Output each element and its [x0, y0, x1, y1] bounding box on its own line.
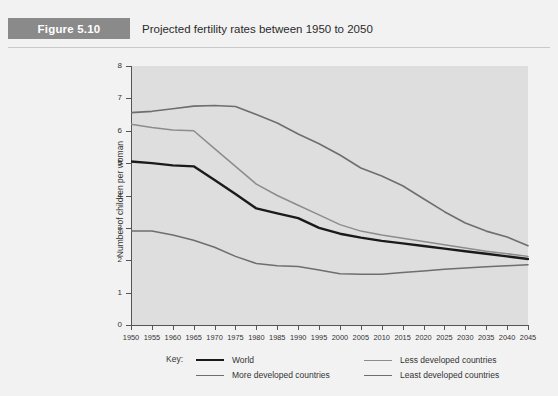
legend-item-least-developed: Least developed countries	[364, 368, 499, 382]
y-tick-label: 8	[96, 62, 122, 70]
legend-item-less-developed: Less developed countries	[364, 353, 496, 367]
legend-label-less-developed: Less developed countries	[400, 355, 496, 365]
series-line-least-developed-countries	[131, 106, 528, 246]
figure-title: Projected fertility rates between 1950 t…	[142, 18, 373, 39]
chart-legend: Key: World Less developed countries More…	[0, 352, 558, 388]
chart-lines	[131, 66, 529, 326]
y-tick-label: 6	[96, 127, 122, 135]
y-tick-label: 1	[96, 289, 122, 297]
y-tick-label: 5	[96, 159, 122, 167]
x-tick-label: 2045	[513, 333, 543, 342]
header-divider	[8, 47, 550, 48]
legend-label-least-developed: Least developed countries	[400, 370, 499, 380]
y-tick-label: 2	[96, 256, 122, 264]
legend-label-more-developed: More developed countries	[232, 370, 330, 380]
series-line-less-developed-countries	[131, 124, 528, 256]
figure-number-badge: Figure 5.10	[8, 18, 130, 39]
legend-label-world: World	[232, 355, 254, 365]
y-tick-label: 4	[96, 192, 122, 200]
y-tick-label: 3	[96, 224, 122, 232]
legend-key-label: Key:	[166, 354, 183, 364]
figure-header: Figure 5.10 Projected fertility rates be…	[0, 18, 558, 40]
legend-swatch-world	[196, 359, 224, 361]
figure-page: Figure 5.10 Projected fertility rates be…	[0, 0, 558, 396]
chart-container: Number of children per woman 012345678 1…	[0, 52, 558, 352]
legend-item-more-developed: More developed countries	[196, 368, 330, 382]
legend-swatch-less-developed	[364, 360, 392, 361]
legend-swatch-least-developed	[364, 375, 392, 376]
series-line-world	[131, 162, 528, 259]
legend-item-world: World	[196, 353, 254, 367]
y-tick-label: 7	[96, 94, 122, 102]
y-tick-label: 0	[96, 321, 122, 329]
legend-swatch-more-developed	[196, 375, 224, 376]
